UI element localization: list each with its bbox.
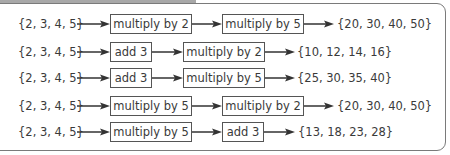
arrow-icon: [77, 131, 110, 133]
function-chain-row: {2, 3, 4, 5} add 3 multiply by 5 {25, 30…: [0, 68, 450, 88]
operation-box-step1: multiply by 5: [110, 96, 192, 116]
arrow-icon: [77, 105, 110, 107]
operation-box-step1: add 3: [110, 42, 152, 62]
arrow-icon: [304, 105, 334, 107]
operation-box-step1: add 3: [110, 68, 152, 88]
arrow-icon: [152, 77, 183, 79]
function-chain-row: {2, 3, 4, 5} multiply by 5 multiply by 2…: [0, 96, 450, 116]
output-set: {20, 30, 40, 50}: [337, 96, 432, 116]
operation-box-step2: multiply by 2: [222, 96, 304, 116]
arrow-icon: [304, 23, 334, 25]
operation-box-step2: multiply by 5: [222, 14, 304, 34]
input-set: {2, 3, 4, 5}: [18, 42, 84, 62]
input-set: {2, 3, 4, 5}: [18, 14, 84, 34]
function-chain-row: {2, 3, 4, 5} multiply by 5 add 3 {13, 18…: [0, 122, 450, 142]
arrow-icon: [152, 51, 183, 53]
arrow-icon: [264, 131, 295, 133]
output-set: {13, 18, 23, 28}: [298, 122, 393, 142]
input-set: {2, 3, 4, 5}: [18, 122, 84, 142]
arrow-icon: [192, 23, 222, 25]
output-set: {10, 12, 14, 16}: [297, 42, 392, 62]
arrow-icon: [77, 51, 110, 53]
operation-box-step1: multiply by 2: [110, 14, 192, 34]
input-set: {2, 3, 4, 5}: [18, 96, 84, 116]
operation-box-step2: multiply by 2: [183, 42, 265, 62]
operation-box-step2: add 3: [222, 122, 264, 142]
arrow-icon: [192, 131, 222, 133]
output-set: {25, 30, 35, 40}: [297, 68, 392, 88]
input-set: {2, 3, 4, 5}: [18, 68, 84, 88]
function-chain-row: {2, 3, 4, 5} multiply by 2 multiply by 5…: [0, 14, 450, 34]
arrow-icon: [265, 77, 295, 79]
arrow-icon: [77, 77, 110, 79]
operation-box-step2: multiply by 5: [183, 68, 265, 88]
operation-box-step1: multiply by 5: [110, 122, 192, 142]
function-chain-row: {2, 3, 4, 5} add 3 multiply by 2 {10, 12…: [0, 42, 450, 62]
arrow-icon: [192, 105, 222, 107]
arrow-icon: [77, 23, 110, 25]
arrow-icon: [265, 51, 295, 53]
output-set: {20, 30, 40, 50}: [337, 14, 432, 34]
